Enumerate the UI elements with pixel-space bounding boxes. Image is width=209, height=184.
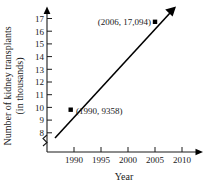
y-tick-label-15: 15: [35, 39, 45, 49]
y-tick-label-14: 14: [35, 52, 45, 62]
y-tick-label-8: 8: [40, 128, 45, 138]
data-point-marker-2006: [153, 20, 157, 24]
data-point-label-2006: (2006, 17,094): [98, 17, 151, 27]
chart-canvas: 17 16 15 14 13 12 11 10 9 8 1990 1995 20…: [0, 0, 209, 184]
kidney-transplants-line-chart: 17 16 15 14 13 12 11 10 9 8 1990 1995 20…: [0, 0, 209, 184]
data-point-marker-1990: [69, 108, 73, 112]
x-tick-label-1995: 1995: [92, 155, 111, 165]
y-tick-label-11: 11: [35, 90, 44, 100]
y-tick-label-16: 16: [35, 27, 45, 37]
y-tick-label-10: 10: [35, 103, 45, 113]
y-tick-label-17: 17: [35, 14, 45, 24]
x-axis-arrowhead: [196, 149, 204, 155]
data-point-label-1990: (1990, 9358): [76, 106, 123, 116]
x-tick-label-2005: 2005: [146, 155, 165, 165]
x-tick-label-2000: 2000: [119, 155, 138, 165]
x-tick-label-1990: 1990: [65, 155, 84, 165]
x-tick-label-2010: 2010: [173, 155, 192, 165]
y-tick-label-9: 9: [40, 115, 45, 125]
y-axis-title-line2: (in thousands): [14, 58, 26, 115]
y-tick-label-13: 13: [35, 65, 45, 75]
trend-line-arrowhead: [165, 7, 176, 17]
x-axis-title: Year: [115, 171, 134, 182]
y-axis-arrowhead: [44, 7, 51, 15]
trend-line: [55, 13, 170, 138]
y-tick-label-12: 12: [35, 77, 44, 87]
y-axis-title-line1: Number of kidney transplants: [2, 26, 13, 145]
